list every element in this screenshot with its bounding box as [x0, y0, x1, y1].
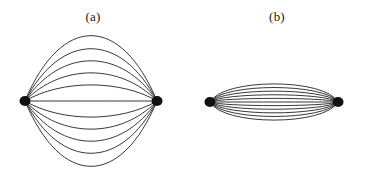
graph-edge	[210, 91, 338, 102]
graph-edge	[25, 101, 157, 153]
figure-root: (a) (b)	[0, 0, 373, 172]
panel-label-b: (b)	[269, 9, 285, 25]
graph-edge	[25, 85, 157, 101]
graph-edge	[25, 61, 157, 101]
graph-edge	[25, 36, 157, 101]
graph-vertex-left	[205, 97, 216, 107]
panel-label-a: (a)	[85, 9, 100, 25]
panel-b-graph	[205, 84, 344, 120]
graph-edge	[210, 102, 338, 106]
graph-edge	[25, 73, 157, 101]
graph-vertex-left	[20, 96, 31, 106]
panel-a-graph	[20, 36, 163, 167]
multigraph-figure-canvas	[0, 0, 373, 172]
graph-edge	[25, 101, 157, 117]
graph-edge	[210, 98, 338, 102]
graph-edge	[210, 102, 338, 113]
graph-edge	[25, 49, 157, 101]
graph-edge	[25, 101, 157, 129]
graph-vertex-right	[333, 97, 344, 107]
graph-vertex-right	[152, 96, 163, 106]
graph-edge	[25, 101, 157, 166]
graph-edge	[25, 101, 157, 141]
